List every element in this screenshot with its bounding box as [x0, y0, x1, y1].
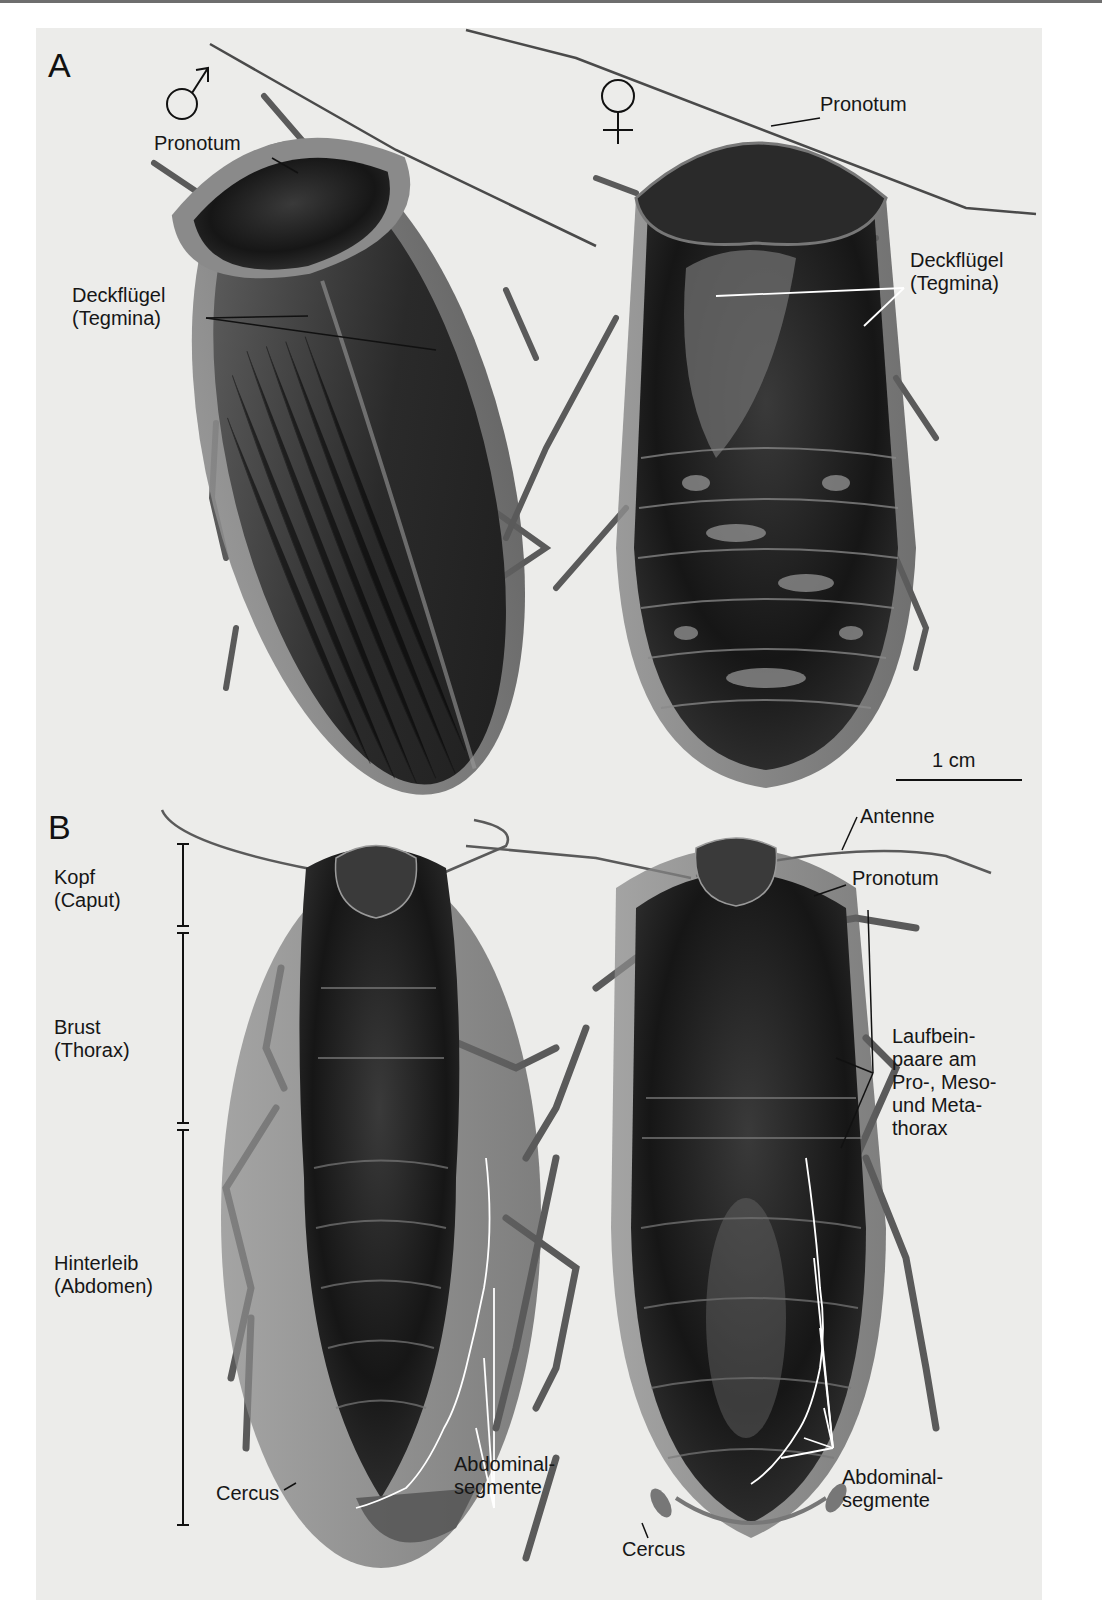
- label-legs-3: Pro-, Meso-: [892, 1071, 996, 1094]
- male-symbol-icon: [160, 58, 210, 128]
- label-brust: Brust: [54, 1016, 101, 1039]
- label-legs-2: paare am: [892, 1048, 977, 1071]
- right-specimen-ventral: [611, 838, 886, 1538]
- label-deckfluegel-male: Deckflügel: [72, 284, 165, 307]
- female-specimen-dorsal: [616, 143, 916, 788]
- label-pronotum-male: Pronotum: [154, 132, 241, 155]
- label-pronotum-female: Pronotum: [820, 93, 907, 116]
- label-legs-5: thorax: [892, 1117, 948, 1140]
- label-kopf: Kopf: [54, 866, 95, 889]
- label-legs-4: und Meta-: [892, 1094, 982, 1117]
- label-hinterleib: Hinterleib: [54, 1252, 138, 1275]
- label-abdominal-right-1: Abdominal-: [842, 1466, 943, 1489]
- label-caput: (Caput): [54, 889, 121, 912]
- label-abdominal-left-2: segmente: [454, 1476, 542, 1499]
- body-region-bracket: [177, 844, 189, 1525]
- panel-label-a: A: [48, 48, 71, 82]
- label-legs-1: Laufbein-: [892, 1025, 975, 1048]
- figure-panel: A Pronotum Deckflügel (Tegmina) Pronotum…: [36, 28, 1042, 1600]
- label-abdominal-left-1: Abdominal-: [454, 1453, 555, 1476]
- scale-bar-label: 1 cm: [932, 749, 975, 772]
- label-cercus-left: Cercus: [216, 1482, 279, 1505]
- label-antenne: Antenne: [860, 805, 935, 828]
- panel-label-b: B: [48, 810, 71, 844]
- label-abdominal-right-2: segmente: [842, 1489, 930, 1512]
- label-cercus-right: Cercus: [622, 1538, 685, 1561]
- page-top-rule: [0, 0, 1102, 3]
- label-abdomen: (Abdomen): [54, 1275, 153, 1298]
- label-tegmina-male: (Tegmina): [72, 307, 161, 330]
- female-symbol-icon: [598, 78, 638, 148]
- label-thorax: (Thorax): [54, 1039, 130, 1062]
- male-specimen-dorsal: [132, 106, 585, 829]
- label-tegmina-female: (Tegmina): [910, 272, 999, 295]
- label-deckfluegel-female: Deckflügel: [910, 249, 1003, 272]
- label-pronotum-ventral: Pronotum: [852, 867, 939, 890]
